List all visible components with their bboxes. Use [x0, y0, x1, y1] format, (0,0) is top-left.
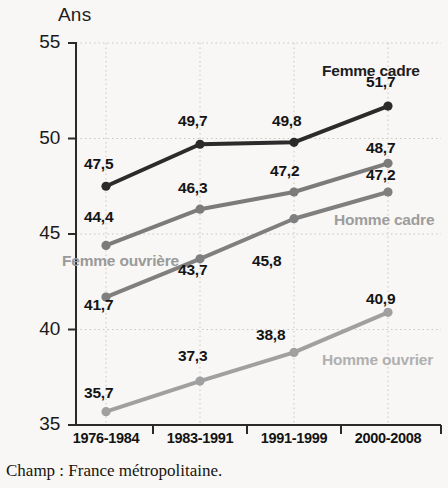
x-axis-tick-1976-1984: 1976-1984	[59, 430, 153, 446]
series-label-femme-ouvrière: Femme ouvrière	[62, 252, 179, 270]
chart-figure: Ans 3540455055 1976-19841983-19911991-19…	[0, 0, 448, 488]
data-value-label: 40,9	[366, 290, 395, 308]
data-value-label: 43,7	[178, 261, 207, 279]
data-value-label: 35,7	[84, 384, 113, 402]
data-value-label: 48,7	[366, 139, 395, 157]
data-value-label: 49,7	[178, 112, 207, 130]
series-label-femme-cadre: Femme cadre	[322, 62, 420, 80]
data-value-label: 45,8	[252, 252, 281, 270]
data-value-label: 37,3	[178, 347, 207, 365]
x-axis-tick-1983-1991: 1983-1991	[153, 430, 247, 446]
data-value-label: 49,8	[272, 112, 301, 130]
y-axis-tick-45: 45	[14, 222, 60, 244]
y-axis-tick-50: 50	[14, 127, 60, 149]
data-value-label: 41,7	[84, 296, 113, 314]
x-axis-tick-2000-2008: 2000-2008	[341, 430, 435, 446]
data-value-label: 47,2	[366, 166, 395, 184]
data-value-label: 38,8	[256, 326, 285, 344]
data-value-label: 44,4	[84, 208, 113, 226]
data-value-label: 47,5	[84, 155, 113, 173]
y-axis-tick-40: 40	[14, 318, 60, 340]
x-axis-tick-1991-1999: 1991-1999	[247, 430, 341, 446]
y-axis-tick-55: 55	[14, 31, 60, 53]
y-axis-tick-35: 35	[14, 413, 60, 435]
series-label-homme-ouvrier: Homme ouvrier	[322, 351, 433, 369]
series-label-homme-cadre: Homme cadre	[334, 211, 434, 229]
data-value-label: 47,2	[270, 162, 299, 180]
chart-caption: Champ : France métropolitaine.	[6, 461, 222, 481]
data-value-label: 46,3	[178, 179, 207, 197]
